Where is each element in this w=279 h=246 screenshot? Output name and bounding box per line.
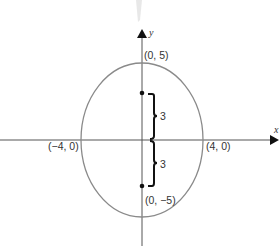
x-axis	[0, 135, 279, 145]
y-axis-label: y	[148, 27, 154, 38]
ellipse-diagram: 3 3 (0, 5) (0, −5) (−4, 0) (4, 0) y x	[0, 0, 279, 246]
x-axis-label: x	[273, 124, 279, 135]
vertex-label-right: (4, 0)	[206, 140, 231, 152]
vertex-label-left: (−4, 0)	[48, 140, 79, 152]
brace-upper	[148, 94, 157, 139]
focus-point-lower	[140, 184, 145, 189]
focus-point-upper	[140, 91, 145, 96]
vertex-label-top: (0, 5)	[144, 49, 169, 61]
vertex-label-bottom: (0, −5)	[145, 194, 176, 206]
y-axis-arrow-icon	[137, 29, 147, 38]
brace-lower	[148, 141, 157, 186]
scan-smudge	[136, 0, 142, 22]
brace-lower-label: 3	[160, 158, 166, 170]
x-axis-arrow-icon	[270, 135, 279, 145]
y-axis	[137, 29, 147, 246]
brace-upper-label: 3	[160, 110, 166, 122]
